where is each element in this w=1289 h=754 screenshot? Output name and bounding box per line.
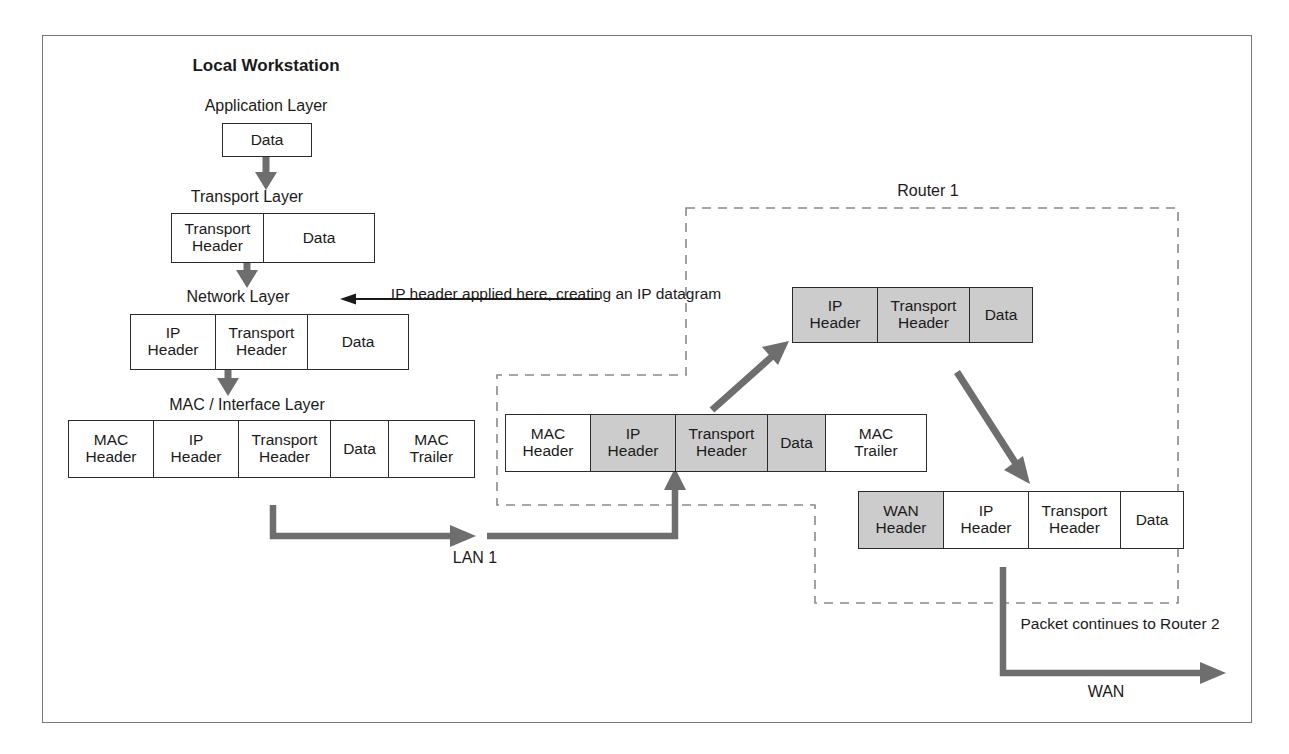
mac-interface-layer-label: MAC / Interface Layer — [169, 396, 325, 414]
transport-layer-packet-cell: Transport Header — [172, 214, 264, 262]
router-1-label: Router 1 — [897, 182, 958, 200]
network-layer-packet: IP HeaderTransport HeaderData — [130, 314, 409, 370]
application-layer-packet: Data — [222, 123, 312, 157]
mac-interface-layer-packet-cell: Transport Header — [239, 421, 331, 477]
router-outbound-wan-frame-cell: Transport Header — [1029, 492, 1121, 548]
mac-interface-layer-packet-cell: MAC Trailer — [389, 421, 474, 477]
router-ip-datagram-cell: Data — [970, 288, 1032, 342]
transport-layer-label: Transport Layer — [191, 188, 303, 206]
ip-header-note: IP header applied here, creating an IP d… — [391, 284, 721, 303]
mac-interface-layer-packet-cell: IP Header — [154, 421, 239, 477]
application-layer-packet-cell: Data — [223, 124, 311, 156]
mac-interface-layer-packet: MAC HeaderIP HeaderTransport HeaderDataM… — [68, 420, 475, 478]
router-inbound-lan-frame-cell: Data — [768, 415, 826, 471]
router-inbound-lan-frame-cell: IP Header — [591, 415, 676, 471]
wan-label: WAN — [1088, 683, 1125, 701]
router-outbound-wan-frame-cell: Data — [1121, 492, 1183, 548]
network-layer-packet-cell: Transport Header — [216, 315, 308, 369]
router-outbound-wan-frame-cell: WAN Header — [859, 492, 944, 548]
packet-continues-note: Packet continues to Router 2 — [1020, 614, 1219, 633]
router-inbound-lan-frame-cell: MAC Trailer — [826, 415, 926, 471]
application-layer-label: Application Layer — [205, 97, 328, 115]
router-inbound-lan-frame-cell: MAC Header — [506, 415, 591, 471]
transport-layer-packet: Transport HeaderData — [171, 213, 375, 263]
mac-interface-layer-packet-cell: Data — [331, 421, 389, 477]
router-ip-datagram-cell: Transport Header — [878, 288, 970, 342]
network-layer-label: Network Layer — [186, 288, 289, 306]
local-workstation-title: Local Workstation — [192, 56, 339, 75]
network-layer-packet-cell: Data — [308, 315, 408, 369]
router-inbound-lan-frame: MAC HeaderIP HeaderTransport HeaderDataM… — [505, 414, 927, 472]
router-outbound-wan-frame: WAN HeaderIP HeaderTransport HeaderData — [858, 491, 1184, 549]
transport-layer-packet-cell: Data — [264, 214, 374, 262]
network-layer-packet-cell: IP Header — [131, 315, 216, 369]
router-ip-datagram: IP HeaderTransport HeaderData — [792, 287, 1033, 343]
router-ip-datagram-cell: IP Header — [793, 288, 878, 342]
lan-1-label: LAN 1 — [453, 549, 497, 567]
router-inbound-lan-frame-cell: Transport Header — [676, 415, 768, 471]
diagram-canvas: Local Workstation Application Layer Tran… — [0, 0, 1289, 754]
mac-interface-layer-packet-cell: MAC Header — [69, 421, 154, 477]
router-outbound-wan-frame-cell: IP Header — [944, 492, 1029, 548]
